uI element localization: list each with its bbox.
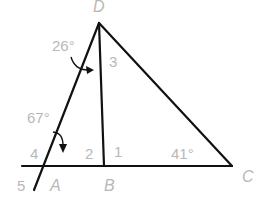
segment-db xyxy=(99,23,104,166)
point-label-d: D xyxy=(93,0,105,15)
angle-label-5: 5 xyxy=(17,177,25,194)
point-label-c: C xyxy=(242,168,254,185)
angle-measure-41: 41° xyxy=(171,145,194,162)
angle-measure-26: 26° xyxy=(52,37,75,54)
angle-67-arrowhead xyxy=(59,144,67,153)
angle-label-4: 4 xyxy=(30,145,38,162)
angle-26-arrowhead xyxy=(86,66,94,74)
angle-label-1: 1 xyxy=(114,143,122,160)
point-label-b: B xyxy=(104,177,115,194)
angle-label-2: 2 xyxy=(85,145,93,162)
angle-label-3: 3 xyxy=(109,53,117,70)
point-label-a: A xyxy=(49,177,61,194)
angle-measure-67: 67° xyxy=(27,109,50,126)
triangle-diagram: D A B C 26° 67° 41° 3 1 2 4 5 xyxy=(0,0,263,206)
